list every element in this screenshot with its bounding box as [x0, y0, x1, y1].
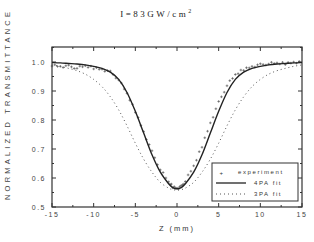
x-tick-label: 10	[255, 211, 266, 218]
experiment-marker	[209, 122, 212, 125]
legend-label: 4PA fit	[254, 180, 282, 186]
y-tick-label: 0.6	[32, 175, 46, 182]
experiment-marker	[87, 66, 90, 69]
experiment-marker	[78, 65, 81, 68]
experiment-marker	[240, 69, 243, 72]
y-tick-label: 1.0	[32, 59, 46, 66]
x-tick-label: -5	[131, 211, 140, 218]
legend-label: experiment	[238, 169, 284, 175]
experiment-marker	[198, 150, 201, 153]
experiment-marker	[226, 84, 229, 87]
experiment-marker	[256, 64, 259, 67]
experiment-marker	[76, 67, 79, 70]
experiment-marker	[228, 79, 231, 82]
experiment-marker	[251, 65, 254, 68]
experiment-marker	[231, 77, 234, 80]
experiment-marker	[215, 107, 218, 110]
chart-plot: -15-10-50510150.50.60.70.80.91.0 +experi…	[0, 0, 314, 242]
experiment-marker	[223, 91, 226, 94]
x-tick-label: 5	[216, 211, 221, 218]
experiment-marker	[270, 61, 273, 64]
legend-label: 3PA fit	[254, 191, 282, 197]
y-tick-label: 0.9	[32, 88, 46, 95]
experiment-marker	[53, 64, 56, 67]
experiment-marker	[92, 68, 95, 71]
experiment-marker	[201, 146, 204, 149]
y-tick-label: 0.5	[32, 204, 46, 211]
y-tick-label: 0.8	[32, 117, 46, 124]
experiment-marker	[217, 100, 220, 103]
experiment-marker	[212, 116, 215, 119]
experiment-marker	[70, 66, 73, 69]
experiment-marker	[65, 64, 68, 67]
x-tick-label: -10	[86, 211, 101, 218]
legend-plus-icon: +	[219, 170, 224, 176]
experiment-marker	[220, 96, 223, 99]
experiment-marker	[245, 66, 248, 69]
experiment-marker	[234, 73, 237, 76]
x-tick-label: -15	[45, 211, 60, 218]
x-tick-label: 0	[174, 211, 179, 218]
experiment-marker	[81, 66, 84, 69]
y-tick-label: 0.7	[32, 146, 46, 153]
experiment-marker	[73, 67, 76, 70]
experiment-marker	[192, 165, 195, 168]
experiment-marker	[195, 159, 198, 162]
experiment-marker	[259, 62, 262, 65]
x-tick-label: 15	[297, 211, 308, 218]
legend: +experiment4PA fit3PA fit	[212, 163, 298, 201]
experiment-marker	[203, 136, 206, 139]
experiment-marker	[206, 130, 209, 133]
experiment-marker	[162, 171, 165, 174]
experiment-marker	[67, 64, 70, 67]
experiment-marker	[187, 174, 190, 177]
experiment-marker	[237, 72, 240, 75]
experiment-marker	[190, 170, 193, 173]
